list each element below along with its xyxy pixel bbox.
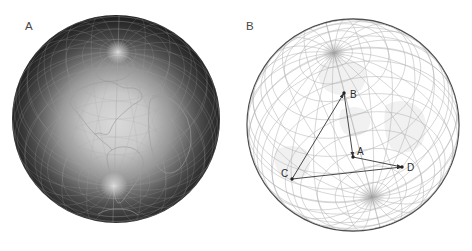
south-pole-glow [100,172,128,200]
panel-b-label: B [246,20,254,32]
panel-a-label: A [25,20,33,32]
wireframe-sphere-graphic: ABCD [236,0,472,251]
far-pole-glow [359,184,385,210]
panel-b: B ABCD [236,0,472,251]
earth-globe-graphic [0,0,236,251]
point-d-label: D [407,162,414,173]
near-pole-glow [322,41,346,65]
point-b-label: B [350,89,357,100]
two-panel-globe-figure: A B ABCD [0,0,472,251]
point-a-label: A [357,146,364,157]
point-c-dot [290,177,293,180]
point-d-dot [400,165,403,168]
point-c-label: C [281,168,288,179]
point-a-dot [351,155,354,158]
north-pole-glow [106,40,130,64]
point-b-dot [342,91,345,94]
panel-a: A [0,0,236,251]
